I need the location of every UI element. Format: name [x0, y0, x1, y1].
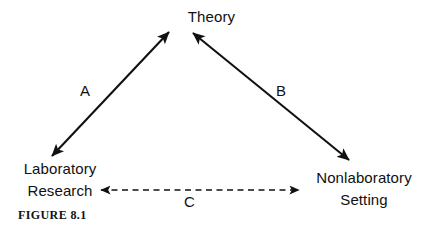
node-nonlaboratory-line-1: Nonlaboratory [312, 167, 416, 189]
edge-a-arrow [52, 32, 169, 156]
edge-b-arrow [193, 33, 349, 160]
edge-label-b: B [276, 82, 286, 99]
edge-label-c: C [184, 193, 195, 210]
node-theory: Theory [0, 6, 423, 28]
edge-label-a: A [80, 82, 90, 99]
node-theory-line-1: Theory [0, 6, 423, 28]
node-nonlaboratory-line-2: Setting [312, 189, 416, 211]
node-laboratory-research: Laboratory Research [8, 158, 112, 202]
figure-container: Theory Laboratory Research Nonlaboratory… [0, 0, 423, 239]
node-laboratory-line-1: Laboratory [8, 158, 112, 180]
figure-caption: FIGURE 8.1 [18, 208, 87, 223]
node-nonlaboratory-setting: Nonlaboratory Setting [312, 167, 416, 211]
node-laboratory-line-2: Research [8, 180, 112, 202]
